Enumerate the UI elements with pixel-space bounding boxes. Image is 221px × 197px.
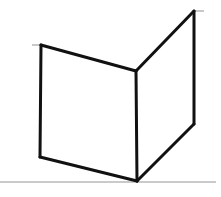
left-panel-outer-vertical (40, 45, 41, 157)
right-panel-bottom-edge (137, 124, 194, 181)
corner-vertical-edge (136, 71, 137, 181)
diagram-canvas (0, 0, 221, 197)
left-panel-bottom-edge (40, 157, 137, 181)
left-panel-top-edge (41, 45, 136, 71)
corner-panels-figure (0, 0, 221, 197)
right-panel-top-edge (136, 11, 194, 71)
